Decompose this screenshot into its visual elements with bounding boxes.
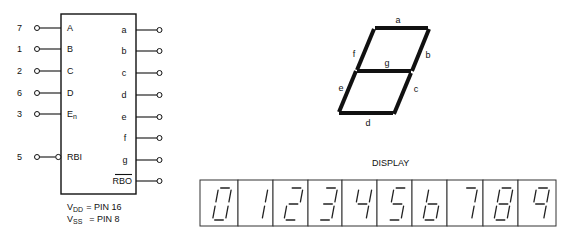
display-digit-0 [200,180,238,226]
segment-label-e: e [338,83,343,93]
output-pin-e: e [121,112,162,122]
pin-terminal-icon [157,158,162,163]
pin-label: RBO [112,176,132,186]
pin-label: C [67,66,74,76]
segment-label-d: d [365,118,370,128]
output-pin-a: a [121,25,162,35]
pin-number: 3 [17,109,22,119]
pin-terminal-icon [157,71,162,76]
input-pin-En: 3 En [17,109,77,120]
pin-terminal-icon [157,115,162,120]
display-digit-5 [377,180,412,226]
output-pin-f: f [124,133,162,143]
pin-number: 2 [17,66,22,76]
pin-terminal-icon [35,91,40,96]
display-title: DISPLAY [372,158,409,168]
display-digit-3 [308,180,342,226]
output-pin-d: d [121,90,162,100]
pin-label: b [121,46,126,56]
pin-label: A [67,23,73,33]
pin-terminal-icon [157,136,162,141]
display-digit-4 [342,180,377,226]
input-pin-C: 2 C [17,66,74,76]
pin-terminal-icon [157,28,162,33]
segment-label-g: g [384,58,389,68]
display-digit-1 [238,180,273,226]
segment-f [357,29,374,70]
input-pin-B: 1 B [17,44,73,54]
power-note: VDD= PIN 16 VSS= PIN 8 [67,202,121,225]
pin-number: 6 [17,88,22,98]
display-digit-7 [447,180,483,226]
output-pin-RBO: RBO [112,175,162,187]
pin-terminal-icon [35,112,40,117]
pin-label: e [121,112,126,122]
pin-label: RBI [67,152,82,162]
output-pin-b: b [121,46,162,56]
pin-number: 1 [17,44,22,54]
decoder-diagram: 7 A 1 B 2 C 6 D 3 En 5 RBI a [0,0,564,241]
display-digit-6 [412,180,447,226]
segment-label-b: b [425,50,430,60]
pin-terminal-icon [157,49,162,54]
pin-terminal-icon [35,47,40,52]
pin-number: 5 [17,152,22,162]
display-digit-9 [518,180,556,226]
pin-label: a [121,25,126,35]
pin-label: d [121,90,126,100]
output-pin-g: g [122,155,162,165]
output-pin-c: c [122,68,162,78]
display-digit-8 [483,180,518,226]
pin-label: D [67,88,74,98]
pin-terminal-icon [157,93,162,98]
pin-label: g [122,155,127,165]
vss-note: VSS= PIN 8 [67,214,120,225]
pin-number: 7 [17,23,22,33]
segment-label-c: c [414,84,419,94]
pin-terminal-icon [157,179,162,184]
segment-label-a: a [395,15,400,25]
pin-label: f [124,133,127,143]
inversion-bubble-icon [56,154,61,159]
pin-terminal-icon [35,69,40,74]
input-pin-A: 7 A [17,23,73,33]
decoder-chip-body [61,14,136,194]
input-pin-RBI: 5 RBI [17,152,82,162]
input-pin-D: 6 D [17,88,74,98]
display-row [200,180,556,226]
vdd-note: VDD= PIN 16 [67,202,121,213]
seven-segment-diagram: a b c d e f g [338,15,430,128]
segment-c [394,73,411,114]
segment-label-f: f [353,49,356,59]
pin-terminal-icon [35,155,40,160]
pin-terminal-icon [35,26,40,31]
display-digit-2 [273,180,308,226]
pin-label: En [67,109,77,120]
pin-label: c [122,68,127,78]
pin-label: B [67,44,73,54]
